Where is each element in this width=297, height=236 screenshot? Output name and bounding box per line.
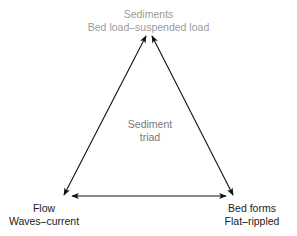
- edge-flow-sediments: [64, 36, 146, 195]
- center-label-line1: Sediment: [100, 118, 200, 131]
- node-sediments: Sediments Bed load–suspended load: [0, 8, 297, 34]
- node-bed-forms: Bed forms Flat–rippled: [212, 202, 292, 228]
- node-flow-subtitle: Waves–current: [0, 215, 88, 228]
- node-sediments-subtitle: Bed load–suspended load: [0, 21, 297, 34]
- node-sediments-title: Sediments: [0, 8, 297, 21]
- node-flow: Flow Waves–current: [0, 202, 88, 228]
- edge-sediments-bedforms: [152, 36, 233, 195]
- node-bed-forms-title: Bed forms: [212, 202, 292, 215]
- center-label-line2: triad: [100, 131, 200, 144]
- node-flow-title: Flow: [0, 202, 88, 215]
- node-bed-forms-subtitle: Flat–rippled: [212, 215, 292, 228]
- center-label: Sediment triad: [100, 118, 200, 144]
